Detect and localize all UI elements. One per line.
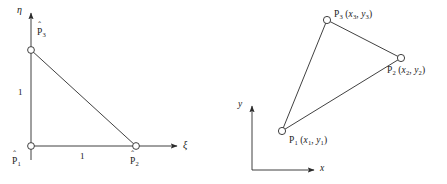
reference-triangle-hypotenuse [31, 50, 136, 146]
reference-node-p2-marker[interactable] [133, 143, 140, 150]
p1-coords-close: ) [324, 135, 327, 145]
p2-subscript: 2 [135, 160, 138, 167]
p1-subscript: 1 [294, 139, 297, 146]
reference-node-p1-marker[interactable] [28, 143, 35, 150]
physical-node-p1-marker[interactable] [278, 127, 285, 134]
xi-axis-label: ξ [183, 140, 187, 150]
p3-subscript: 3 [339, 13, 342, 20]
p2-coords-close: ) [422, 65, 425, 75]
p3-coord-y-subscript: 3 [366, 13, 369, 20]
reference-node-p2-label: ˆP2 [130, 157, 139, 167]
physical-node-p3-marker[interactable] [323, 16, 330, 23]
circumflex-accent-icon: ˆ [13, 151, 16, 159]
circumflex-accent-icon: ˆ [38, 22, 41, 30]
reference-node-p3-label: ˆP3 [37, 28, 46, 38]
physical-node-p1-label: P1 (x1, y1) [289, 136, 327, 146]
right-panel-physical-element [252, 16, 405, 170]
physical-triangle-edge-p3-p2 [327, 20, 401, 58]
figure-vector-layer [0, 0, 447, 184]
p2-coord-y: y [414, 65, 418, 75]
p2-subscript: 2 [392, 69, 395, 76]
reference-node-p3-marker[interactable] [28, 47, 35, 54]
left-panel-reference-element [28, 13, 177, 160]
circumflex-accent-icon: ˆ [131, 151, 134, 159]
y-axis-label: y [238, 100, 242, 110]
physical-node-p2-label: P2 (x2, y2) [387, 66, 425, 76]
p1-coord-y-subscript: 1 [321, 139, 324, 146]
p2-coord-y-subscript: 2 [419, 69, 422, 76]
p1-coord-x-subscript: 1 [308, 139, 311, 146]
physical-node-p3-label: P3 (x3, y3) [334, 10, 372, 20]
p3-subscript: 3 [42, 31, 45, 38]
p3-coord-y: y [361, 9, 365, 19]
vertical-side-length-label: 1 [18, 88, 23, 97]
p3-coord-x-subscript: 3 [353, 13, 356, 20]
physical-triangle-edge-p1-p3 [282, 20, 327, 131]
physical-triangle-edge-p2-p1 [282, 58, 401, 131]
p2-coord-x-subscript: 2 [406, 69, 409, 76]
horizontal-side-length-label: 1 [80, 152, 85, 161]
figure-root: η ξ ˆP3 ˆP1 ˆP2 1 1 y x P3 (x3, y3) P2 (… [0, 0, 447, 184]
reference-node-p1-label: ˆP1 [12, 157, 21, 167]
p1-coord-y: y [316, 135, 320, 145]
eta-axis-label: η [17, 5, 22, 15]
p1-subscript: 1 [17, 160, 20, 167]
p3-coords-close: ) [369, 9, 372, 19]
x-axis-label: x [320, 164, 324, 174]
physical-node-p2-marker[interactable] [397, 54, 404, 61]
